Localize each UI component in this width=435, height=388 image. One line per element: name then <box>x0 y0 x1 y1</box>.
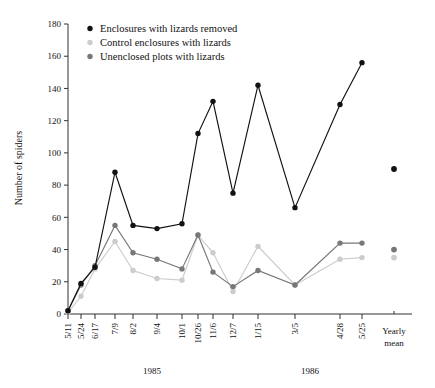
data-point <box>210 250 215 255</box>
x-axis-tick-label: 10/1 <box>177 323 187 339</box>
x-axis-tick-label: 5/25 <box>357 323 367 340</box>
legend-marker <box>87 40 92 45</box>
y-axis-tick-label: 80 <box>52 180 62 190</box>
x-axis-tick-label: 4/28 <box>335 323 345 340</box>
data-point <box>230 284 235 289</box>
yearly-mean-point <box>391 166 397 172</box>
chart-legend: Enclosures with lizards removedControl e… <box>87 23 238 62</box>
data-point <box>359 255 364 260</box>
x-axis-tick-label: 8/2 <box>128 323 138 335</box>
y-axis-tick-label: 140 <box>48 84 62 94</box>
y-axis-tick-label: 40 <box>52 245 62 255</box>
data-point <box>112 239 117 244</box>
data-point <box>92 265 97 270</box>
x-axis-tick-label: 10/26 <box>193 323 203 344</box>
x-axis-tick-label: 1/15 <box>253 323 263 340</box>
yearly-mean-points <box>391 166 397 260</box>
data-point <box>179 266 184 271</box>
data-point <box>179 221 184 226</box>
data-point <box>292 205 297 210</box>
legend-marker <box>87 26 92 31</box>
data-point <box>230 289 235 294</box>
yearly-mean-point <box>391 247 397 253</box>
y-axis-tick-label: 0 <box>57 309 62 319</box>
data-point <box>154 276 159 281</box>
data-point <box>78 281 83 286</box>
spider-abundance-chart: 020406080100120140160180Number of spider… <box>0 0 435 388</box>
data-point <box>210 99 215 104</box>
x-axis-tick-label: 7/9 <box>110 323 120 335</box>
data-point <box>179 277 184 282</box>
y-axis-tick-label: 60 <box>52 213 62 223</box>
yearly-mean-label-line2: mean <box>384 338 404 348</box>
x-axis-group-label-1986: 1986 <box>301 366 320 376</box>
data-series-group <box>65 60 364 315</box>
data-point <box>154 226 159 231</box>
legend-label: Control enclosures with lizards <box>100 37 231 48</box>
yearly-mean-label-line1: Yearly <box>382 326 406 336</box>
data-point <box>195 131 200 136</box>
data-point <box>230 190 235 195</box>
x-axis-tick-label: 5/11 <box>63 323 73 339</box>
data-point <box>337 257 342 262</box>
x-axis-tick-label: 6/17 <box>90 323 100 340</box>
y-axis-title: Number of spiders <box>13 131 24 206</box>
chart-canvas: 020406080100120140160180Number of spider… <box>0 0 435 388</box>
legend-label: Enclosures with lizards removed <box>100 23 238 34</box>
data-point <box>112 223 117 228</box>
y-axis-tick-label: 160 <box>48 51 62 61</box>
data-point <box>65 308 70 313</box>
x-axis-tick-label: 5/24 <box>76 323 86 340</box>
data-point <box>255 83 260 88</box>
data-point <box>210 269 215 274</box>
data-point <box>112 170 117 175</box>
data-point <box>337 102 342 107</box>
y-axis-tick-label: 120 <box>48 116 62 126</box>
x-axis-tick-label: 11/6 <box>208 323 218 339</box>
x-axis-tick-label: 9/4 <box>152 323 162 335</box>
data-point <box>255 268 260 273</box>
data-point <box>130 223 135 228</box>
data-point <box>255 244 260 249</box>
data-point <box>130 250 135 255</box>
data-point <box>359 240 364 245</box>
y-axis-tick-label: 20 <box>52 277 62 287</box>
data-point <box>78 294 83 299</box>
data-point <box>292 282 297 287</box>
data-point <box>337 240 342 245</box>
x-axis-tick-label: 3/5 <box>290 323 300 335</box>
data-point <box>130 268 135 273</box>
x-axis-tick-label: 12/7 <box>228 323 238 340</box>
data-point <box>359 60 364 65</box>
y-axis-tick-label: 180 <box>48 19 62 29</box>
legend-marker <box>87 54 92 59</box>
series-line <box>68 225 362 310</box>
data-point <box>154 257 159 262</box>
x-axis-labels: 5/115/246/177/98/29/410/110/2611/612/71/… <box>63 311 406 376</box>
data-point <box>195 232 200 237</box>
x-axis-group-label-1985: 1985 <box>143 366 162 376</box>
yearly-mean-point <box>391 255 397 261</box>
y-axis-tick-label: 100 <box>48 148 62 158</box>
legend-label: Unenclosed plots with lizards <box>100 51 225 62</box>
